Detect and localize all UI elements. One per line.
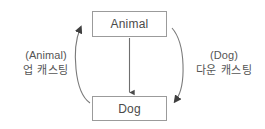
- downcasting-label-text: 다운 캐스팅: [180, 63, 265, 78]
- node-dog-label: Dog: [118, 102, 141, 116]
- upcasting-label-text: 업 캐스팅: [4, 63, 88, 78]
- node-animal[interactable]: Animal: [92, 11, 167, 37]
- node-dog[interactable]: Dog: [92, 96, 167, 121]
- downcasting-cast-type: (Dog): [180, 48, 265, 63]
- downcasting-label: (Dog) 다운 캐스팅: [180, 48, 265, 78]
- casting-diagram: Animal Dog (Animal) 업 캐스팅 (Dog) 다운 캐스팅: [0, 0, 265, 129]
- node-animal-label: Animal: [111, 17, 149, 31]
- upcasting-label: (Animal) 업 캐스팅: [4, 48, 88, 78]
- upcasting-cast-type: (Animal): [4, 48, 88, 63]
